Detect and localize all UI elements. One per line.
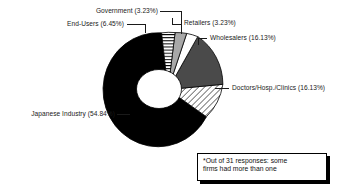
chart-canvas: Government (3.23%) End-Users (6.45%) Ret… xyxy=(0,0,343,190)
leader-line-end-users-vert xyxy=(145,24,146,33)
pie-label-end-users: End-Users (6.45%) xyxy=(50,20,124,28)
leader-line-wholesalers xyxy=(198,38,207,39)
pie-label-japanese-industry: Japanese Industry (54.84%) xyxy=(12,110,115,118)
pie-label-doctors-hosp-clinics: Doctors/Hosp./Clinics (16.13%) xyxy=(232,84,343,92)
leader-line-government xyxy=(160,11,182,12)
pie-slice-group xyxy=(103,32,223,146)
pie-label-government: Government (3.23%) xyxy=(78,7,158,15)
leader-line-doctors xyxy=(215,88,229,89)
donut-hole xyxy=(137,70,182,109)
footnote-line-1: *Out of 31 responses: some xyxy=(203,157,322,165)
leader-line-retailers xyxy=(172,24,181,25)
pie-label-wholesalers: Wholesalers (16.13%) xyxy=(210,34,300,42)
leader-line-end-users xyxy=(127,24,146,25)
footnote-box: *Out of 31 responses: some firms had mor… xyxy=(197,153,327,181)
footnote-line-2: firms had more than one xyxy=(203,165,322,173)
leader-line-government-vert xyxy=(181,11,182,34)
leader-line-japanese-industry xyxy=(117,114,130,115)
leader-line-wholesalers-vert xyxy=(198,38,199,45)
pie-label-retailers: Retailers (3.23%) xyxy=(184,19,264,27)
